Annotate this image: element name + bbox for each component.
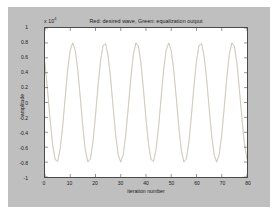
chart-title: Red: desired wave, Green: equalization o…	[44, 18, 248, 24]
series-line	[45, 43, 247, 162]
x-tick-label: 10	[59, 180, 81, 186]
y-tick-label: 0.6	[4, 54, 28, 60]
y-tick-label: 1	[4, 24, 28, 30]
matlab-figure-window: x 104 Red: desired wave, Green: equaliza…	[8, 7, 270, 207]
x-tick-label: 80	[237, 180, 259, 186]
plot-canvas	[45, 28, 247, 177]
y-tick-label: -0.8	[4, 160, 28, 166]
x-tick-label: 40	[135, 180, 157, 186]
x-axis-label: iteration number	[44, 188, 248, 194]
x-tick-label: 70	[212, 180, 234, 186]
x-tick-label: 50	[161, 180, 183, 186]
x-tick-label: 60	[186, 180, 208, 186]
series-line	[45, 43, 247, 162]
y-tick-label: 0.8	[4, 39, 28, 45]
x-tick-label: 20	[84, 180, 106, 186]
plot-axes	[44, 27, 248, 178]
y-tick-label: -1	[4, 175, 28, 181]
y-tick-label: -0.6	[4, 145, 28, 151]
y-axis-label: amplitude	[19, 75, 25, 135]
x-tick-label: 30	[110, 180, 132, 186]
x-tick-label: 0	[33, 180, 55, 186]
